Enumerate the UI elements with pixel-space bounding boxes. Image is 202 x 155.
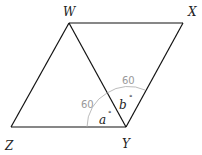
vertex-label-z: Z <box>4 139 14 153</box>
angle-label-b: b <box>119 98 127 112</box>
rhombus-diagram: W X Z Y a ° b ° 60 60 <box>0 0 202 155</box>
annotation-a-60: 60 <box>81 99 94 110</box>
edge-zw <box>11 23 69 127</box>
annotation-b-60: 60 <box>122 75 135 86</box>
vertex-label-w: W <box>63 5 77 19</box>
vertex-label-x: X <box>187 5 197 19</box>
angle-label-a: a <box>99 113 106 127</box>
vertex-label-y: Y <box>122 137 131 151</box>
angle-b-degree: ° <box>129 94 133 102</box>
diagonal-wy <box>69 23 126 127</box>
angle-a-degree: ° <box>108 110 112 118</box>
angle-arc-b <box>107 86 145 93</box>
